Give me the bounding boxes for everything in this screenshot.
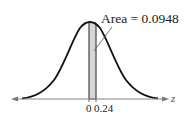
axis-label-z: z [171, 93, 175, 104]
normal-curve-figure: Area = 0.0948 z 0 0.24 [0, 0, 190, 119]
right-arrow-icon [162, 97, 169, 102]
shaded-area [89, 22, 96, 99]
left-arrow-icon [11, 97, 18, 102]
area-label: Area = 0.0948 [101, 12, 179, 26]
tick-label-0-24: 0.24 [94, 103, 113, 114]
tick-label-0: 0 [86, 103, 92, 114]
